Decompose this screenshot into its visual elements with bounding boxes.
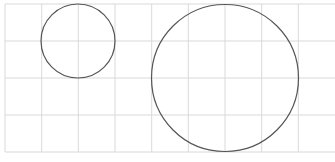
background <box>0 0 335 162</box>
diagram-canvas <box>0 0 335 162</box>
